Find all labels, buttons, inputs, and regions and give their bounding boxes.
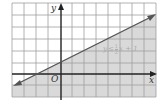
inequality-lhs: y — [103, 46, 107, 53]
inequality-label: y ≤ 1 2 x + 1 — [103, 44, 138, 55]
origin-label: O — [51, 75, 58, 84]
inequality-rest: x + 1 — [119, 46, 138, 53]
x-axis-label: x — [149, 76, 154, 85]
inequality-fraction: 1 2 — [115, 44, 118, 55]
y-axis-label: y — [51, 4, 56, 13]
coordinate-plane — [0, 0, 163, 103]
fraction-denominator: 2 — [115, 50, 118, 55]
y-axis-arrow-icon — [58, 3, 64, 10]
inequality-operator: ≤ — [108, 46, 114, 53]
boundary-arrow-left-icon — [13, 80, 22, 86]
